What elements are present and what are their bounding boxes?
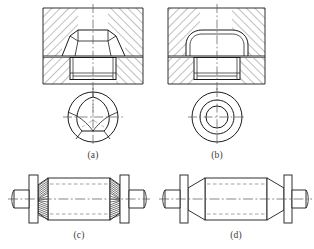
figure-b-caption: (b) xyxy=(211,150,223,161)
technical-drawing-canvas: (a) xyxy=(0,0,314,249)
figure-d-caption: (d) xyxy=(230,230,242,241)
figure-c-caption: (c) xyxy=(73,230,84,241)
figure-a-caption: (a) xyxy=(87,150,98,161)
figure-sheet: (a) xyxy=(0,0,314,249)
